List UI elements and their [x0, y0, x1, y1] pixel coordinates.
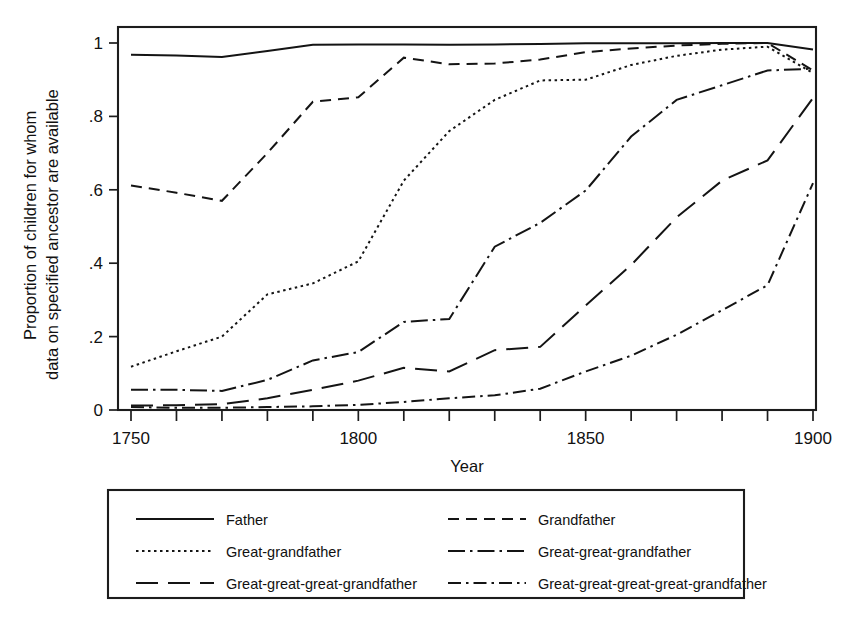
legend-entry-label: Great-great-great-grandfather	[226, 576, 417, 592]
x-tick-label: 1850	[567, 429, 605, 448]
legend-entry-label: Great-great-grandfather	[538, 544, 691, 560]
y-tick-label: .2	[89, 328, 103, 347]
y-tick-label: 1	[94, 34, 103, 53]
y-axis-title-line-2: data on specified ancestor are available	[43, 89, 61, 380]
y-tick-label: .4	[89, 254, 103, 273]
y-tick-label: .6	[89, 181, 103, 200]
x-tick-label: 1800	[339, 429, 377, 448]
y-tick-label: 0	[94, 401, 103, 420]
x-axis-title: Year	[450, 457, 484, 475]
x-tick-label: 1750	[112, 429, 150, 448]
legend-entry-label: Grandfather	[538, 512, 616, 528]
figure-background	[0, 0, 852, 617]
legend-entry-label: Great-great-great-great-grandfather	[538, 576, 767, 592]
legend-entry-label: Great-grandfather	[226, 544, 341, 560]
legend-entry-label: Father	[226, 512, 268, 528]
y-tick-label: .8	[89, 107, 103, 126]
x-tick-label: 1900	[794, 429, 832, 448]
y-axis-title-line-1: Proportion of children for whom	[21, 111, 39, 340]
chart-figure: Proportion of children for whom data on …	[0, 0, 852, 617]
